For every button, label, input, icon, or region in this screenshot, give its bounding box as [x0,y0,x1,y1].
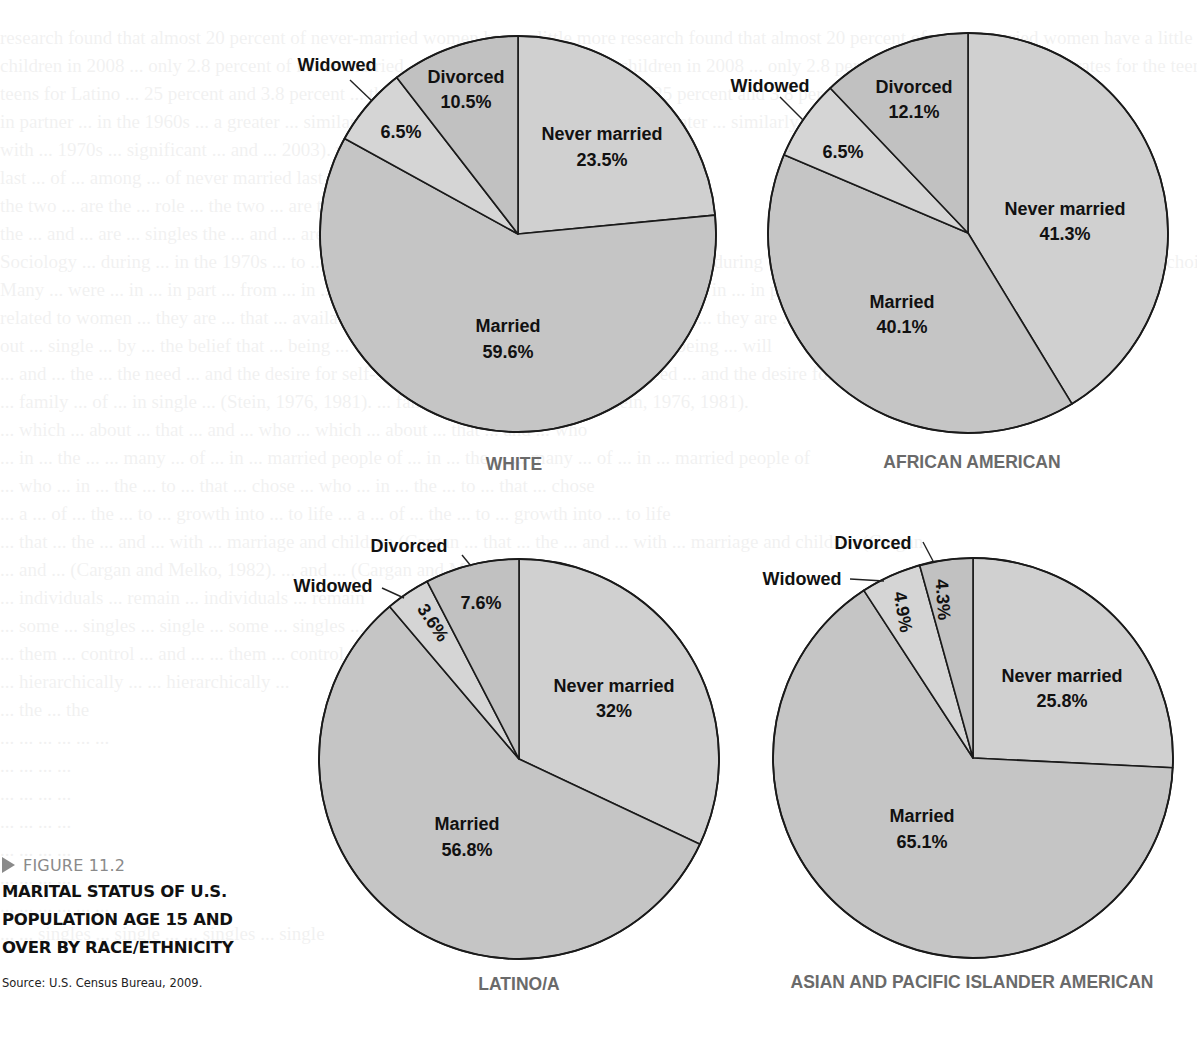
widowed-leader-line [382,588,404,598]
divorced-value: 7.6% [460,593,501,613]
pie-slices [320,36,716,432]
never-married-value: 25.8% [1036,691,1087,711]
never-married-label: Never married [553,676,674,696]
divorced-value: 12.1% [888,102,939,122]
widowed-leader-line [350,80,372,101]
pie-title-white: WHITE [486,454,542,474]
widowed-value: 6.5% [822,142,863,162]
divorced-label: Divorced [834,533,911,553]
widowed-leader-line [780,97,803,120]
figure-title-line-1: MARITAL STATUS OF U.S. [2,878,302,906]
widowed-label: Widowed [763,569,842,589]
married-value: 65.1% [896,832,947,852]
widowed-label: Widowed [294,576,373,596]
figure-number: FIGURE 11.2 [2,852,302,878]
never-married-label: Never married [1001,666,1122,686]
widowed-value: 6.5% [380,122,421,142]
figure-title-line-2: POPULATION AGE 15 AND [2,906,302,934]
pie-chart-asian-pacific-islander: Divorced Widowed 4.3% 4.9% Never married… [763,533,1173,992]
pie-title-latino: LATINO/A [478,974,560,994]
never-married-label: Never married [1004,199,1125,219]
married-label: Married [434,814,499,834]
pie-title-asian-pacific-islander: ASIAN AND PACIFIC ISLANDER AMERICAN [791,972,1154,992]
married-value: 59.6% [482,342,533,362]
pie-chart-african-american: Widowed Divorced 12.1% 6.5% Never marrie… [731,33,1168,472]
widowed-label: Widowed [731,76,810,96]
triangle-arrow-icon [2,857,15,873]
pie-chart-latino: Divorced Widowed 7.6% 3.6% Never married… [294,536,719,994]
pie-slices [773,558,1173,958]
figure-caption: FIGURE 11.2 MARITAL STATUS OF U.S. POPUL… [2,852,302,990]
never-married-label: Never married [541,124,662,144]
divorced-value: 4.3% [932,578,955,620]
widowed-label: Widowed [298,55,377,75]
pie-slices [319,559,719,959]
figure-title-line-3: OVER BY RACE/ETHNICITY [2,934,302,962]
married-value: 56.8% [441,840,492,860]
figure-source: Source: U.S. Census Bureau, 2009. [2,976,302,990]
divorced-label: Divorced [427,67,504,87]
divorced-label: Divorced [370,536,447,556]
pie-slices [768,33,1168,433]
divorced-leader-line [462,555,471,566]
divorced-label: Divorced [875,77,952,97]
figure-label: FIGURE 11.2 [23,856,125,875]
widowed-leader-line [850,579,884,581]
divorced-leader-line [923,542,933,561]
never-married-value: 32% [596,701,632,721]
married-label: Married [889,806,954,826]
never-married-value: 23.5% [576,150,627,170]
married-label: Married [869,292,934,312]
never-married-value: 41.3% [1039,224,1090,244]
married-value: 40.1% [876,317,927,337]
pie-chart-white: Widowed Divorced 10.5% 6.5% Never marrie… [298,36,716,474]
divorced-value: 10.5% [440,92,491,112]
slice-never-married [973,558,1173,768]
pie-title-african-american: AFRICAN AMERICAN [883,452,1060,472]
married-label: Married [475,316,540,336]
